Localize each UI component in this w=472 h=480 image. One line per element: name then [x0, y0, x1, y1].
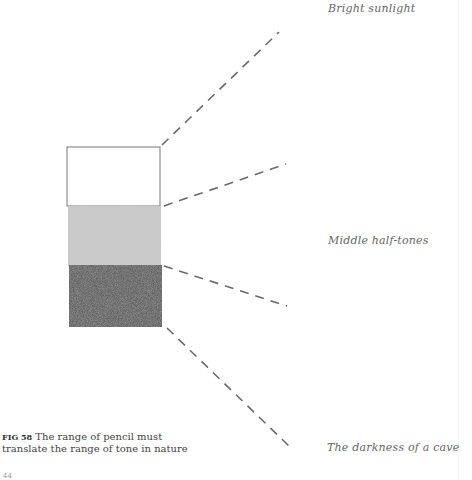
swatch-dark: [69, 265, 162, 327]
label-middle-half-tones: Middle half-tones: [328, 234, 429, 247]
caption-line-2: translate the range of tone in nature: [2, 443, 188, 454]
figure-caption: FIG 58 The range of pencil must translat…: [2, 431, 188, 455]
caption-line-1: The range of pencil must: [35, 431, 162, 442]
leader-line-mid-lower: [164, 266, 287, 306]
swatch-mid: [68, 206, 161, 266]
label-darkness-of-cave: The darkness of a cave: [327, 441, 459, 454]
page-number: 44: [3, 472, 12, 480]
label-bright-sunlight: Bright sunlight: [328, 2, 415, 15]
leader-line-mid-upper: [164, 164, 286, 206]
figure-number: FIG 58: [2, 432, 32, 442]
swatch-bright: [67, 147, 160, 206]
leader-line-dark: [167, 328, 291, 448]
leader-line-bright: [162, 32, 279, 145]
